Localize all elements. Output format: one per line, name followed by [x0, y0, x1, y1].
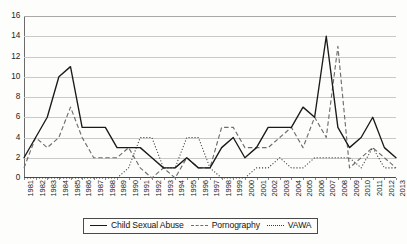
x-axis-tick-label: 2003 [283, 180, 291, 197]
x-axis-tick [222, 178, 223, 180]
x-axis-tick-label: 1983 [50, 180, 58, 197]
y-axis-tick-label: 16 [11, 12, 20, 20]
x-axis-tick-label: 2001 [260, 180, 268, 197]
x-axis-tick [210, 178, 211, 180]
plot-area [24, 16, 396, 178]
x-axis-tick-label: 2012 [388, 180, 396, 197]
x-axis-tick-label: 2004 [295, 180, 303, 197]
x-axis-tick [152, 178, 153, 180]
y-axis-tick-label: 12 [11, 53, 20, 61]
x-axis-tick-label: 1998 [225, 180, 233, 197]
legend-item-vawa: VAWA [267, 221, 312, 230]
x-axis-tick [129, 178, 130, 180]
x-axis-tick-label: 1990 [132, 180, 140, 197]
x-axis-tick-label: 2006 [318, 180, 326, 197]
x-axis-tick [245, 178, 246, 180]
x-axis-tick [24, 178, 25, 180]
x-axis-tick [117, 178, 118, 180]
x-axis-tick-label: 2013 [399, 180, 407, 197]
legend-swatch-solid-icon [90, 225, 107, 226]
x-axis-tick-label: 1994 [178, 180, 186, 197]
x-axis-tick-label: 1985 [74, 180, 82, 197]
x-axis-tick [315, 178, 316, 180]
legend-label: Pornography [212, 221, 260, 230]
x-axis-tick-label: 1984 [62, 180, 70, 197]
x-axis-tick [303, 178, 304, 180]
chart-legend: Child Sexual Abuse Pornography VAWA [83, 218, 318, 234]
x-axis-tick [59, 178, 60, 180]
x-axis-tick [94, 178, 95, 180]
legend-swatch-dashed-icon [191, 225, 208, 226]
x-axis-tick [257, 178, 258, 180]
x-axis-tick [280, 178, 281, 180]
x-axis-tick [291, 178, 292, 180]
y-axis-tick-label: 6 [16, 113, 20, 121]
x-axis-tick-label: 2000 [248, 180, 256, 197]
x-axis-tick-label: 2002 [271, 180, 279, 197]
x-axis-tick-label: 1989 [120, 180, 128, 197]
x-axis-tick [338, 178, 339, 180]
legend-item-child-sexual-abuse: Child Sexual Abuse [90, 221, 184, 230]
x-axis-tick-label: 1995 [190, 180, 198, 197]
y-axis-tick-label: 4 [16, 134, 20, 142]
x-axis-tick-label: 1981 [27, 180, 35, 197]
x-axis-tick-label: 1986 [85, 180, 93, 197]
x-axis-tick-label: 2009 [353, 180, 361, 197]
x-axis-tick [396, 178, 397, 180]
x-axis-tick-label: 1999 [236, 180, 244, 197]
x-axis-tick [82, 178, 83, 180]
x-axis-tick [350, 178, 351, 180]
x-axis-tick-label: 1987 [97, 180, 105, 197]
x-axis-tick-label: 2005 [306, 180, 314, 197]
x-axis-tick [175, 178, 176, 180]
x-axis-tick [361, 178, 362, 180]
x-axis-tick-label: 1992 [155, 180, 163, 197]
x-axis-tick-label: 2007 [329, 180, 337, 197]
series-line-vawa [24, 138, 396, 179]
y-axis-tick-label: 2 [16, 154, 20, 162]
y-axis-tick-label: 10 [11, 73, 20, 81]
x-axis-tick-label: 2008 [341, 180, 349, 197]
legend-item-pornography: Pornography [191, 221, 260, 230]
x-axis-tick [384, 178, 385, 180]
x-axis-tick [105, 178, 106, 180]
x-axis-tick [198, 178, 199, 180]
y-axis: 0246810121416 [0, 16, 24, 178]
y-axis-tick-label: 8 [16, 93, 20, 101]
x-axis-tick-label: 1991 [143, 180, 151, 197]
x-axis-tick-label: 1996 [202, 180, 210, 197]
x-axis-tick [164, 178, 165, 180]
legend-label: Child Sexual Abuse [111, 221, 184, 230]
series-line-child-sexual-abuse [24, 36, 396, 168]
y-axis-tick-label: 14 [11, 32, 20, 40]
x-axis-tick [373, 178, 374, 180]
x-axis-tick-label: 2010 [364, 180, 372, 197]
legend-label: VAWA [288, 221, 312, 230]
x-axis: 1981198219831984198519861987198819891990… [24, 178, 396, 218]
x-axis-tick [36, 178, 37, 180]
x-axis-tick-label: 1982 [39, 180, 47, 197]
legend-swatch-dotted-icon [267, 225, 284, 226]
x-axis-tick [268, 178, 269, 180]
x-axis-tick [71, 178, 72, 180]
x-axis-tick-label: 1993 [167, 180, 175, 197]
y-axis-tick-label: 0 [16, 174, 20, 182]
x-axis-tick-label: 2011 [376, 180, 384, 196]
series-container [24, 16, 396, 178]
x-axis-tick [187, 178, 188, 180]
x-axis-tick-label: 1997 [213, 180, 221, 197]
x-axis-tick-label: 1988 [109, 180, 117, 197]
